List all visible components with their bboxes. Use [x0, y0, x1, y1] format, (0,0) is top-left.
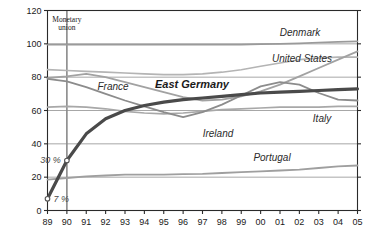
series-label-portugal: Portugal	[253, 152, 291, 163]
xtick-label: 91	[81, 217, 91, 227]
xtick-label: 01	[275, 217, 285, 227]
xtick-label: 95	[159, 217, 169, 227]
xtick-label: 90	[62, 217, 72, 227]
xtick-label: 93	[120, 217, 130, 227]
series-label-italy: Italy	[313, 113, 332, 124]
ytick-label: 0	[36, 206, 41, 216]
ytick-label: 80	[31, 72, 41, 82]
annotation-label-30: 30 %	[40, 155, 61, 165]
series-labels: DenmarkUnited StatesFranceEast GermanyIt…	[97, 27, 332, 163]
series-label-ireland: Ireland	[203, 128, 234, 139]
ytick-label: 20	[31, 172, 41, 182]
series-label-east-germany: East Germany	[155, 78, 230, 90]
series-label-france: France	[97, 81, 129, 92]
xtick-label: 99	[236, 217, 246, 227]
xtick-label: 05	[352, 217, 362, 227]
ytick-label: 60	[31, 106, 41, 116]
series-label-united-states: United States	[272, 53, 332, 64]
annotation-marker	[45, 197, 50, 202]
xtick-label: 00	[256, 217, 266, 227]
xtick-label: 02	[294, 217, 304, 227]
series-label-denmark: Denmark	[280, 27, 322, 38]
line-chart: 020406080100120 899091929394959697989900…	[0, 0, 376, 241]
xtick-label: 92	[101, 217, 111, 227]
ytick-label: 100	[26, 39, 41, 49]
ytick-label: 120	[26, 6, 41, 16]
xtick-label: 97	[197, 217, 207, 227]
xtick-label: 04	[333, 217, 343, 227]
ytick-label: 40	[31, 139, 41, 149]
xtick-label: 89	[42, 217, 52, 227]
annotation-label-7: 7 %	[54, 194, 70, 204]
y-axis-labels: 020406080100120	[26, 6, 41, 216]
data-series-group	[48, 41, 358, 199]
chart-container: 020406080100120 899091929394959697989900…	[0, 0, 376, 241]
x-axis-labels: 8990919293949596979899000102030405	[42, 217, 362, 227]
xtick-label: 94	[139, 217, 149, 227]
xtick-label: 03	[314, 217, 324, 227]
monetary-union-label-line2: union	[58, 23, 75, 32]
annotation-marker	[65, 158, 70, 163]
xtick-label: 96	[178, 217, 188, 227]
xtick-label: 98	[217, 217, 227, 227]
